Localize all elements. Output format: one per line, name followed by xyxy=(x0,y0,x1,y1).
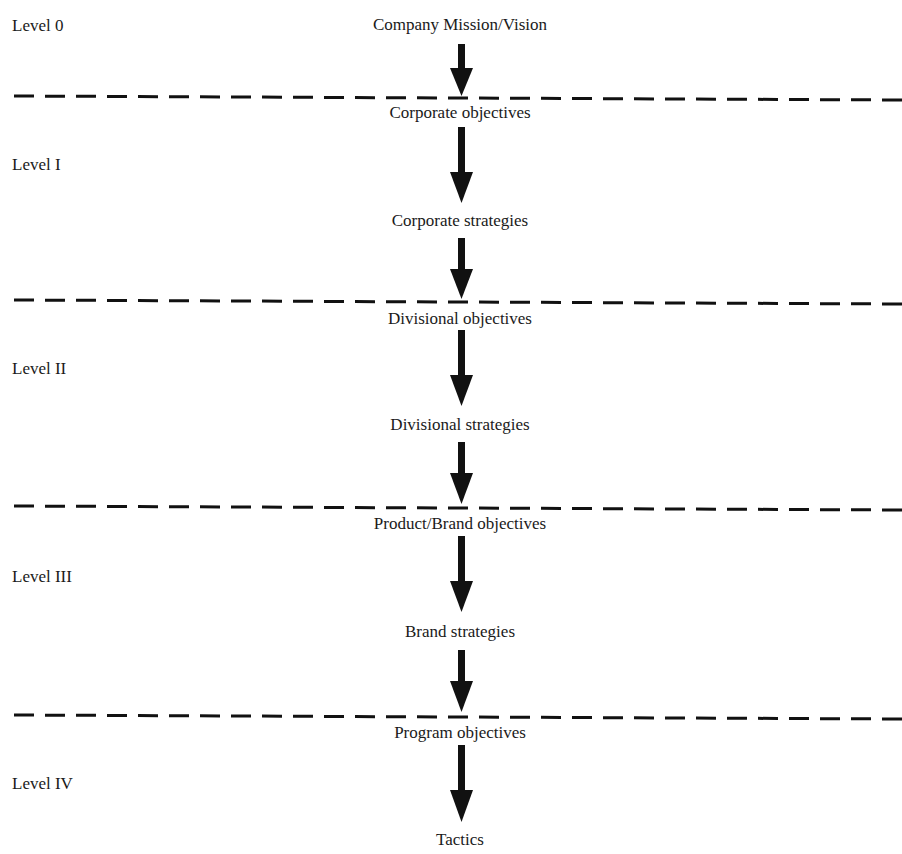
node-product-brand-objectives: Product/Brand objectives xyxy=(260,514,660,534)
level-label-1: Level I xyxy=(12,155,61,175)
node-divisional-strategies: Divisional strategies xyxy=(260,415,660,435)
separator-line-1-2 xyxy=(14,300,902,304)
separator-line-3-4 xyxy=(14,715,902,719)
arrow-down-icon xyxy=(450,650,473,712)
node-divisional-objectives: Divisional objectives xyxy=(260,309,660,329)
node-corporate-strategies: Corporate strategies xyxy=(260,211,660,231)
node-program-objectives: Program objectives xyxy=(260,723,660,743)
node-tactics: Tactics xyxy=(260,830,660,850)
arrow-down-icon xyxy=(450,127,473,203)
arrow-down-icon xyxy=(450,442,473,504)
node-corporate-objectives: Corporate objectives xyxy=(260,103,660,123)
level-label-0: Level 0 xyxy=(12,16,63,36)
arrow-down-icon xyxy=(450,745,473,822)
level-label-3: Level III xyxy=(12,567,72,587)
arrow-down-icon xyxy=(450,44,473,96)
level-label-2: Level II xyxy=(12,359,66,379)
node-brand-strategies: Brand strategies xyxy=(260,622,660,642)
arrow-down-icon xyxy=(450,238,473,299)
level-label-4: Level IV xyxy=(12,774,73,794)
node-company-mission-vision: Company Mission/Vision xyxy=(260,15,660,35)
separator-line-0-1 xyxy=(14,96,902,100)
arrow-down-icon xyxy=(450,330,473,406)
separator-line-2-3 xyxy=(14,506,902,510)
arrow-down-icon xyxy=(450,536,473,612)
